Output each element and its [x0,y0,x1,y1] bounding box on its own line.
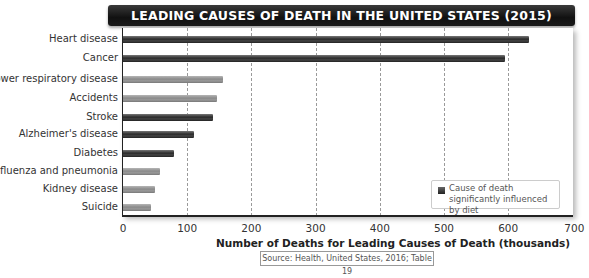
category-label: Cancer [83,52,118,63]
x-tick-label: 700 [564,222,584,234]
x-tick-label: 0 [120,222,127,234]
bar-heart-disease [123,36,529,43]
x-tick-label: 100 [177,222,197,234]
x-tick-label: 300 [306,222,326,234]
bar-influenza-and-pneumonia [123,168,160,175]
bar-stroke [123,114,213,121]
bar-lower-respiratory-disease [123,76,223,83]
x-tick-label: 400 [370,222,390,234]
bar-diabetes [123,150,174,157]
bar-accidents [123,95,217,102]
bar-kidney-disease [123,186,155,193]
x-tick-label: 600 [498,222,518,234]
y-axis-line [122,28,123,216]
category-label: Suicide [82,201,118,212]
category-label: Kidney disease [43,183,118,194]
bar-alzheimer-s-disease [123,131,194,138]
category-label: Diabetes [74,147,118,158]
category-label: Accidents [70,92,118,103]
x-axis-title: Number of Deaths for Leading Causes of D… [216,237,570,249]
x-tick-label: 200 [241,222,261,234]
category-label: Lower respiratory disease [0,73,118,84]
category-label: Alzheimer's disease [19,128,118,139]
legend-swatch-diet [438,187,445,194]
x-tick-label: 500 [434,222,454,234]
bar-cancer [123,55,505,62]
category-label: Heart disease [49,33,118,44]
chart-title: LEADING CAUSES OF DEATH IN THE UNITED ST… [108,5,575,26]
category-label: Influenza and pneumonia [0,165,118,176]
legend-label: Cause of death significantly influenced … [449,183,557,216]
category-label: Stroke [86,111,118,122]
bar-suicide [123,204,151,211]
source-note: Source: Health, United States, 2016; Tab… [260,251,434,266]
legend: Cause of death significantly influenced … [431,180,560,209]
